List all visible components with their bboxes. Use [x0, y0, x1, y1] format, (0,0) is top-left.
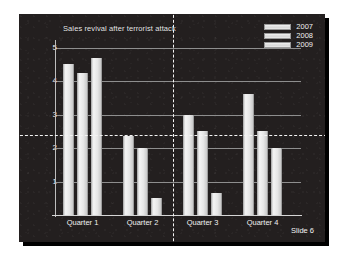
- bar-2008-quarter-2[interactable]: [137, 148, 148, 215]
- horizontal-guide-line: [19, 135, 325, 136]
- bar-2007-quarter-1[interactable]: [63, 64, 74, 215]
- gridline-5: [55, 48, 301, 49]
- bar-2008-quarter-1[interactable]: [77, 73, 88, 215]
- bar-2009-quarter-3[interactable]: [211, 193, 222, 215]
- slide-canvas: Sales revival after terrorist attack 200…: [19, 14, 325, 242]
- bar-2008-quarter-3[interactable]: [197, 131, 208, 215]
- x-tick-label-quarter-3: Quarter 3: [177, 218, 228, 227]
- slide-root: Sales revival after terrorist attack 200…: [0, 0, 347, 271]
- x-tick-label-quarter-1: Quarter 1: [57, 218, 108, 227]
- bar-2009-quarter-4[interactable]: [271, 148, 282, 215]
- x-tick-label-quarter-4: Quarter 4: [237, 218, 288, 227]
- slide-number-label: Slide 6: [291, 226, 314, 235]
- bar-2007-quarter-2[interactable]: [123, 136, 134, 215]
- chart-plot-area: 12345 Quarter 1Quarter 2Quarter 3Quarter…: [19, 14, 325, 242]
- bar-2007-quarter-3[interactable]: [183, 115, 194, 216]
- bar-2009-quarter-1[interactable]: [91, 58, 102, 215]
- vertical-guide-line: [173, 14, 174, 242]
- chart-x-axis-line: [52, 215, 302, 216]
- x-tick-label-quarter-2: Quarter 2: [117, 218, 168, 227]
- bar-2009-quarter-2[interactable]: [151, 198, 162, 215]
- bar-2007-quarter-4[interactable]: [243, 94, 254, 215]
- chart-y-axis-line: [55, 40, 56, 217]
- bar-2008-quarter-4[interactable]: [257, 131, 268, 215]
